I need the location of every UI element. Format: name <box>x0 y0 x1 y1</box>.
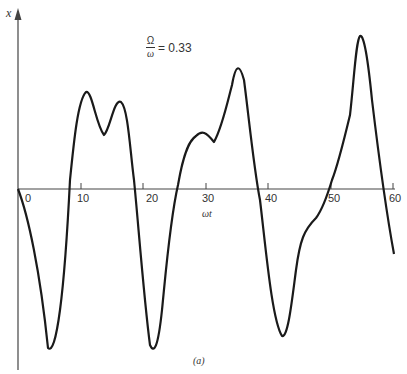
x-tick-label-50: 50 <box>328 192 340 204</box>
figure-caption: (a) <box>193 355 205 366</box>
ratio-numerator: Ω <box>147 36 154 46</box>
y-axis-label: x <box>6 6 11 21</box>
ratio-denominator: ω <box>147 49 154 59</box>
ratio-value: = 0.33 <box>158 41 192 55</box>
x-tick-label-20: 20 <box>146 192 158 204</box>
x-ticks <box>81 183 393 189</box>
ratio-fraction: Ω ω <box>146 36 155 59</box>
x-tick-label-60: 60 <box>389 192 401 204</box>
x-tick-label-0: 0 <box>25 192 31 204</box>
ratio-annotation: Ω ω = 0.33 <box>146 36 192 59</box>
chart-canvas <box>0 0 407 374</box>
x-tick-label-30: 30 <box>202 192 214 204</box>
x-tick-label-10: 10 <box>77 192 89 204</box>
y-axis-arrow-icon <box>15 8 22 20</box>
x-axis-label: ωt <box>202 208 212 219</box>
x-tick-label-40: 40 <box>265 192 277 204</box>
